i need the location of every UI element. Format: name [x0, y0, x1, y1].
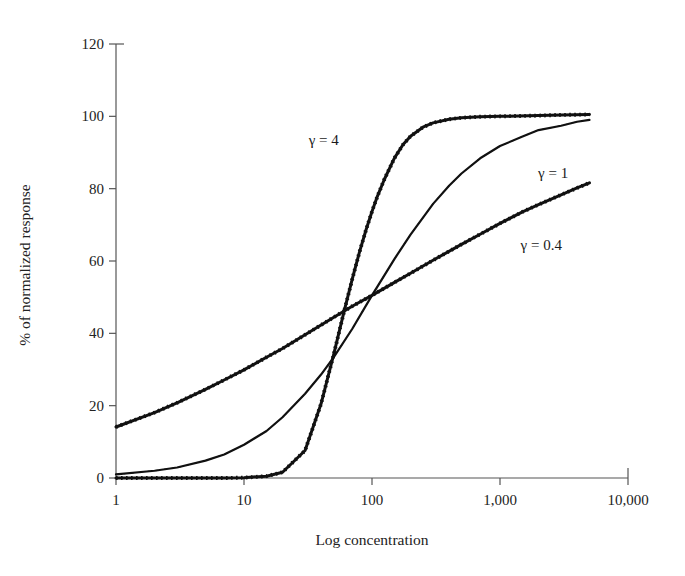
- y-tick-label: 20: [89, 398, 104, 414]
- y-tick-label: 40: [89, 325, 104, 341]
- y-tick-label: 80: [89, 181, 104, 197]
- data-series-markers-1: [116, 120, 589, 474]
- gamma-1-label: γ = 1: [537, 165, 568, 181]
- data-series-markers-0: [116, 115, 589, 478]
- y-tick-label: 0: [97, 470, 105, 486]
- x-tick-label: 10,000: [607, 492, 648, 508]
- gamma-04-label: γ = 0.4: [520, 237, 563, 253]
- data-markers-group: [116, 115, 589, 478]
- data-series-line-1: [116, 120, 589, 474]
- x-axis-tick-labels: 1101001,00010,000: [112, 492, 648, 508]
- data-series-line-0: [116, 115, 589, 478]
- axes-group: 020406080100120 1101001,00010,000: [82, 36, 649, 508]
- chart-figure: 020406080100120 1101001,00010,000 γ = 4γ…: [0, 0, 685, 576]
- gamma-4-label: γ = 4: [308, 132, 340, 148]
- x-tick-label: 10: [237, 492, 252, 508]
- y-tick-label: 60: [89, 253, 104, 269]
- x-tick-label: 100: [361, 492, 384, 508]
- y-axis-title: % of normalized response: [16, 184, 33, 346]
- line-chart: 020406080100120 1101001,00010,000 γ = 4γ…: [0, 0, 685, 576]
- data-series-line-2: [116, 183, 589, 427]
- y-axis-tick-labels: 020406080100120: [82, 36, 105, 486]
- y-tick-label: 120: [82, 36, 105, 52]
- curve-annotations-group: γ = 4γ = 1γ = 0.4: [308, 132, 568, 253]
- data-series-group: [116, 115, 589, 478]
- y-tick-label: 100: [82, 108, 105, 124]
- x-tick-label: 1: [112, 492, 120, 508]
- x-axis-title: Log concentration: [315, 531, 428, 548]
- x-tick-label: 1,000: [483, 492, 517, 508]
